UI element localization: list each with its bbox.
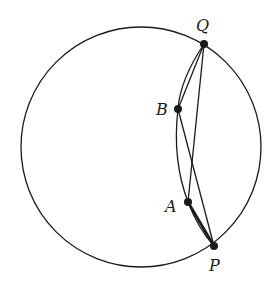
label-b: B — [156, 102, 168, 118]
point-b — [174, 105, 182, 113]
segment-ap — [188, 202, 214, 246]
geometry-diagram: Q B A P — [0, 0, 271, 284]
label-p: P — [209, 258, 220, 274]
diagram-svg — [0, 0, 271, 284]
label-a: A — [165, 199, 177, 215]
point-p — [210, 242, 218, 250]
segment-bp — [178, 109, 214, 246]
point-q — [200, 40, 208, 48]
outer-circle — [21, 27, 261, 267]
label-q: Q — [196, 18, 209, 34]
point-a — [184, 198, 192, 206]
